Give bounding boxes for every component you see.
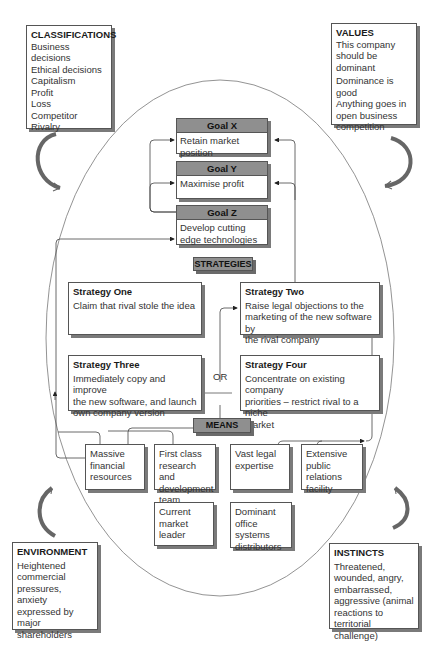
means-box-pr: Extensive public relations facility xyxy=(301,444,363,490)
value-item: This company xyxy=(336,39,412,51)
means-text: facility xyxy=(306,483,358,495)
goal-y-title: Goal Y xyxy=(177,162,267,176)
instinct-item: wounded, angry, xyxy=(334,572,414,584)
means-text: office xyxy=(235,518,287,530)
means-text: relations xyxy=(306,471,358,483)
goal-z-title: Goal Z xyxy=(177,206,267,220)
means-text: distributors xyxy=(235,541,287,553)
instinct-item: territorial challenge) xyxy=(334,618,414,641)
classification-item: Business decisions xyxy=(31,41,107,64)
strategy-two-text: marketing of the new software by xyxy=(245,311,375,334)
means-text: development xyxy=(159,483,211,495)
means-box-legal: Vast legal expertise xyxy=(230,444,290,490)
values-box: VALUES This company should be dominant D… xyxy=(331,23,417,125)
strategy-two-title: Strategy Two xyxy=(245,286,304,297)
strategy-four-text: Concentrate on existing company xyxy=(245,373,375,396)
strategy-four-text: priorities – restrict rival to a niche xyxy=(245,396,375,419)
value-item: dominant xyxy=(336,62,412,74)
environment-title: ENVIRONMENT xyxy=(17,546,87,557)
instinct-item: reactions to xyxy=(334,607,414,619)
means-text: First class xyxy=(159,448,211,460)
strategy-three-title: Strategy Three xyxy=(73,359,140,370)
value-item: Anything goes in xyxy=(336,98,412,110)
curved-arrow-bottom-right-icon xyxy=(393,488,408,528)
goal-x-title: Goal X xyxy=(177,119,267,133)
means-text: Extensive xyxy=(306,448,358,460)
means-text: market xyxy=(159,518,209,530)
classification-item: Capitalism xyxy=(31,75,107,87)
environment-item: pressures, xyxy=(17,583,93,595)
means-box-financial: Massive financial resources xyxy=(85,444,145,490)
strategy-four-box: Strategy Four Concentrate on existing co… xyxy=(240,355,380,411)
goal-y-text: Maximise profit xyxy=(177,176,267,192)
curved-arrow-bottom-left-icon xyxy=(40,488,55,536)
classification-item: Rivalry xyxy=(31,121,107,133)
strategy-three-box: Strategy Three Immediately copy and impr… xyxy=(68,355,202,411)
means-box-market-leader: Current market leader xyxy=(154,502,214,546)
goal-x-box: Goal X Retain market position xyxy=(176,118,268,154)
goal-x-text: Retain market position xyxy=(177,133,267,160)
strategy-one-title: Strategy One xyxy=(73,286,132,297)
value-item: open business xyxy=(336,110,412,122)
curved-arrow-top-right-icon xyxy=(385,138,411,189)
means-text: Dominant xyxy=(235,506,287,518)
environment-item: Heightened xyxy=(17,560,93,572)
means-text: leader xyxy=(159,529,209,541)
strategies-label: STRATEGIES xyxy=(193,257,253,271)
classification-item: Ethical decisions xyxy=(31,64,107,76)
strategy-two-text: Raise legal objections to the xyxy=(245,300,375,312)
means-text: public xyxy=(306,460,358,472)
strategy-two-text: the rival company xyxy=(245,334,375,346)
curved-arrow-top-left-icon xyxy=(38,134,60,191)
classifications-box: CLASSIFICATIONS Business decisions Ethic… xyxy=(26,25,112,129)
value-item: Dominance is good xyxy=(336,75,412,98)
strategy-three-text: Immediately copy and improve xyxy=(73,373,197,396)
strategy-four-text: market xyxy=(245,419,375,431)
strategy-two-box: Strategy Two Raise legal objections to t… xyxy=(240,282,380,335)
strategy-one-box: Strategy One Claim that rival stole the … xyxy=(68,282,202,335)
goal-z-text-line: technologies xyxy=(204,234,257,245)
goal-z-text: Develop cutting edge technologies xyxy=(177,220,267,247)
means-text: systems xyxy=(235,529,287,541)
classification-item: Profit xyxy=(31,87,107,99)
means-text: Current xyxy=(159,506,209,518)
means-box-research: First class research and development tea… xyxy=(154,444,216,490)
environment-item: anxiety xyxy=(17,594,93,606)
strategy-three-text: the new software, and launch xyxy=(73,396,197,408)
values-title: VALUES xyxy=(336,27,374,38)
instinct-item: Threatened, xyxy=(334,561,414,573)
instincts-title: INSTINCTS xyxy=(334,547,384,558)
environment-item: commercial xyxy=(17,571,93,583)
classification-item: Loss xyxy=(31,98,107,110)
means-text: expertise xyxy=(235,460,285,472)
strategy-three-text: own company version xyxy=(73,407,197,419)
classification-item: Competitor xyxy=(31,110,107,122)
means-text: resources xyxy=(90,471,140,483)
means-text: research and xyxy=(159,460,211,483)
environment-box: ENVIRONMENT Heightened commercial pressu… xyxy=(12,542,98,630)
means-text: Massive xyxy=(90,448,140,460)
environment-item: major shareholders xyxy=(17,617,93,640)
instincts-box: INSTINCTS Threatened, wounded, angry, em… xyxy=(329,543,419,629)
goal-y-box: Goal Y Maximise profit xyxy=(176,161,268,199)
environment-item: expressed by xyxy=(17,606,93,618)
means-text: financial xyxy=(90,460,140,472)
value-item: competition xyxy=(336,121,412,133)
strategy-one-text: Claim that rival stole the idea xyxy=(73,300,197,312)
goal-z-box: Goal Z Develop cutting edge technologies xyxy=(176,205,268,245)
means-text: Vast legal xyxy=(235,448,285,460)
means-label: MEANS xyxy=(193,418,251,433)
or-label: OR xyxy=(213,371,227,382)
instinct-item: aggressive (animal xyxy=(334,595,414,607)
value-item: should be xyxy=(336,50,412,62)
classifications-title: CLASSIFICATIONS xyxy=(31,29,116,40)
means-box-distributors: Dominant office systems distributors xyxy=(230,502,292,548)
instinct-item: embarrassed, xyxy=(334,584,414,596)
strategy-four-title: Strategy Four xyxy=(245,359,307,370)
